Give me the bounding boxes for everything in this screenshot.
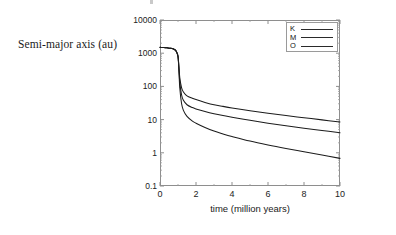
y-axis-title: Semi-major axis (au) (18, 38, 117, 50)
x-axis-title: time (million years) (210, 203, 290, 214)
y-tick-label: 10 (148, 115, 157, 125)
y-tick-label: 10000 (133, 15, 157, 25)
series-line-m (160, 47, 340, 132)
x-tick-label: 10 (335, 189, 345, 199)
legend-item: O (290, 42, 334, 51)
y-tick-label: 100 (143, 81, 157, 91)
x-tick-label: 2 (193, 189, 198, 199)
legend-swatch-m (301, 37, 333, 38)
legend-swatch-k (301, 29, 333, 30)
figure-root: Semi-major axis (au) 1000010001001010.1 … (0, 0, 396, 235)
x-tick-label: 4 (229, 189, 234, 199)
legend-label-o: O (290, 42, 300, 51)
y-tick-label: 1000 (138, 48, 157, 58)
y-tick-label: 1 (152, 148, 157, 158)
legend-box: K M O (286, 22, 338, 52)
x-tick-label: 8 (301, 189, 306, 199)
legend-swatch-o (301, 46, 333, 47)
x-tick-label: 6 (265, 189, 270, 199)
series-line-k (160, 47, 340, 122)
legend-item: K (290, 25, 334, 34)
series-line-o (160, 47, 340, 158)
top-edge-artifact (150, 0, 153, 4)
y-tick-label: 0.1 (145, 181, 157, 191)
legend-item: M (290, 34, 334, 43)
x-tick-label: 0 (157, 189, 162, 199)
plot-area: 1000010001001010.1 0246810 time (million… (160, 20, 340, 186)
